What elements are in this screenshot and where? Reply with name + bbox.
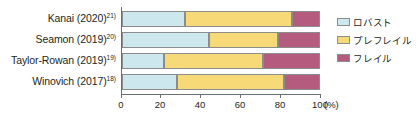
category-label-text: Seamon (2019) — [36, 33, 107, 45]
bar-segment-frail — [284, 74, 320, 90]
bar-row — [122, 74, 320, 90]
legend-item-prefrail: プレフレイル — [337, 32, 412, 47]
legend-label-frail: フレイル — [353, 51, 392, 65]
x-axis-tick-label: 60 — [235, 99, 246, 110]
category-label-seamon-2019: Seamon (2019)20) — [36, 29, 116, 50]
category-axis-labels: Kanai (2020)21) Seamon (2019)20) Taylor-… — [0, 8, 118, 94]
x-axis-tick-label: 80 — [275, 99, 286, 110]
plot-area — [121, 8, 320, 94]
legend-label-prefrail: プレフレイル — [353, 33, 412, 47]
x-axis-tick — [240, 94, 241, 98]
x-axis-tick — [121, 94, 122, 98]
legend: ロバスト プレフレイル フレイル — [337, 14, 412, 68]
x-axis-tick-label: 40 — [195, 99, 206, 110]
legend-label-robust: ロバスト — [353, 15, 392, 29]
reference-superscript: 19) — [107, 54, 116, 61]
bar-segment-robust — [122, 53, 164, 69]
category-label-text: Winovich (2017) — [32, 75, 106, 87]
category-label-taylor-rowan-2019: Taylor-Rowan (2019)19) — [11, 50, 116, 71]
bar-segment-prefrail — [209, 32, 278, 48]
x-axis-tick — [200, 94, 201, 98]
bar-segment-robust — [122, 32, 209, 48]
bar-segment-prefrail — [185, 11, 292, 27]
bar-segment-frail — [292, 11, 320, 27]
x-axis-tick-label: 20 — [155, 99, 166, 110]
category-label-text: Taylor-Rowan (2019) — [11, 54, 107, 66]
category-label-text: Kanai (2020) — [48, 12, 107, 24]
stacked-bar-chart-figure: Kanai (2020)21) Seamon (2019)20) Taylor-… — [0, 0, 419, 119]
bar-segment-frail — [278, 32, 320, 48]
legend-item-frail: フレイル — [337, 50, 412, 65]
x-axis-tick — [320, 94, 321, 98]
x-axis-unit-label: (%) — [324, 99, 339, 110]
bar-row — [122, 53, 320, 69]
reference-superscript: 18) — [107, 75, 116, 82]
legend-swatch-robust-icon — [337, 18, 350, 26]
bar-segment-prefrail — [177, 74, 284, 90]
bar-segment-frail — [263, 53, 320, 69]
category-label-winovich-2017: Winovich (2017)18) — [32, 71, 116, 92]
x-axis-line — [121, 94, 320, 95]
bar-row — [122, 32, 320, 48]
legend-swatch-frail-icon — [337, 54, 350, 62]
x-axis-tick — [160, 94, 161, 98]
reference-superscript: 21) — [107, 12, 116, 19]
x-axis-tick-label: 0 — [118, 99, 123, 110]
bar-segment-robust — [122, 74, 177, 90]
legend-item-robust: ロバスト — [337, 14, 412, 29]
x-axis-tick — [280, 94, 281, 98]
bar-row — [122, 11, 320, 27]
category-label-kanai-2020: Kanai (2020)21) — [48, 8, 116, 29]
reference-superscript: 20) — [107, 33, 116, 40]
bar-segment-robust — [122, 11, 185, 27]
bar-segment-prefrail — [164, 53, 263, 69]
legend-swatch-prefrail-icon — [337, 36, 350, 44]
